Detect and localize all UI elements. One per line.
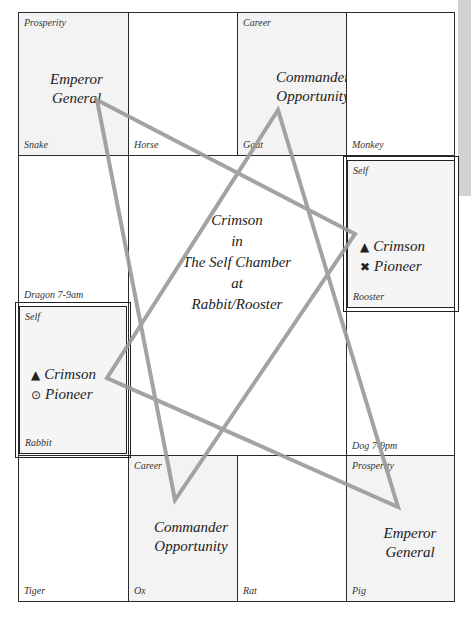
triangle-emperor-rooster-commander [97, 100, 355, 500]
connection-lines [0, 0, 471, 618]
triangle-commander-rabbit-emperor [107, 110, 398, 507]
